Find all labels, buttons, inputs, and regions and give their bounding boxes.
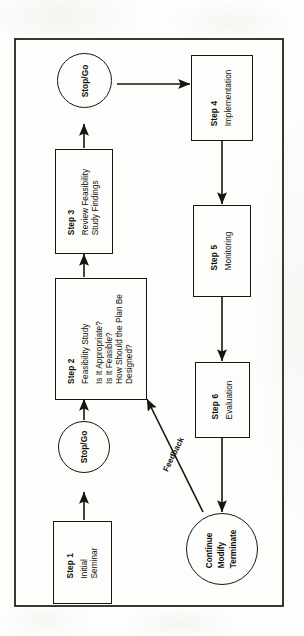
step1-line-2: Seminar: [89, 547, 99, 578]
step2-step-label: Step 2: [67, 294, 77, 384]
node-decision1-stop-go[interactable]: Stop/Go: [58, 421, 110, 473]
node-step4[interactable]: Step 4 Implementation: [191, 55, 253, 141]
step3-step-label: Step 3: [67, 168, 77, 234]
decision2-label: Stop/Go: [79, 64, 90, 97]
outcome-option-modify: Modify: [216, 530, 228, 569]
step1-step-label: Step 1: [66, 547, 76, 578]
node-step3[interactable]: Step 3 Review Feasibility Study Findings: [55, 149, 113, 254]
outcome-option-terminate: Terminate: [228, 530, 240, 569]
step4-step-label: Step 4: [210, 70, 220, 127]
outcome-option-continue: Continue: [204, 530, 216, 569]
step5-step-label: Step 5: [210, 232, 220, 271]
node-step1[interactable]: Step 1 Initial Seminar: [53, 521, 112, 604]
step4-line-1: Implementation: [224, 70, 234, 127]
step1-line-1: Initial: [79, 547, 89, 578]
node-step5[interactable]: Step 5 Monitoring: [193, 205, 251, 297]
step5-line-1: Monitoring: [224, 232, 234, 271]
step6-line-1: Evaluation: [224, 381, 234, 420]
node-outcome[interactable]: Continue Modify Terminate: [186, 513, 258, 585]
node-step2[interactable]: Step 2 Feasibility Study Is It Appropria…: [55, 278, 147, 400]
connector-layer: [0, 0, 304, 636]
step2-line-1: Feasibility Study: [81, 294, 91, 384]
step2-question-4: Designed?: [125, 294, 135, 384]
node-decision2-stop-go[interactable]: Stop/Go: [57, 53, 112, 108]
step3-line-2: Study Findings: [91, 168, 101, 234]
step6-step-label: Step 6: [211, 381, 221, 420]
node-step6[interactable]: Step 6 Evaluation: [195, 362, 250, 438]
decision1-label: Stop/Go: [79, 431, 90, 464]
flowchart-diagram: Step 1 Initial Seminar Stop/Go Step 2 Fe…: [0, 0, 304, 636]
